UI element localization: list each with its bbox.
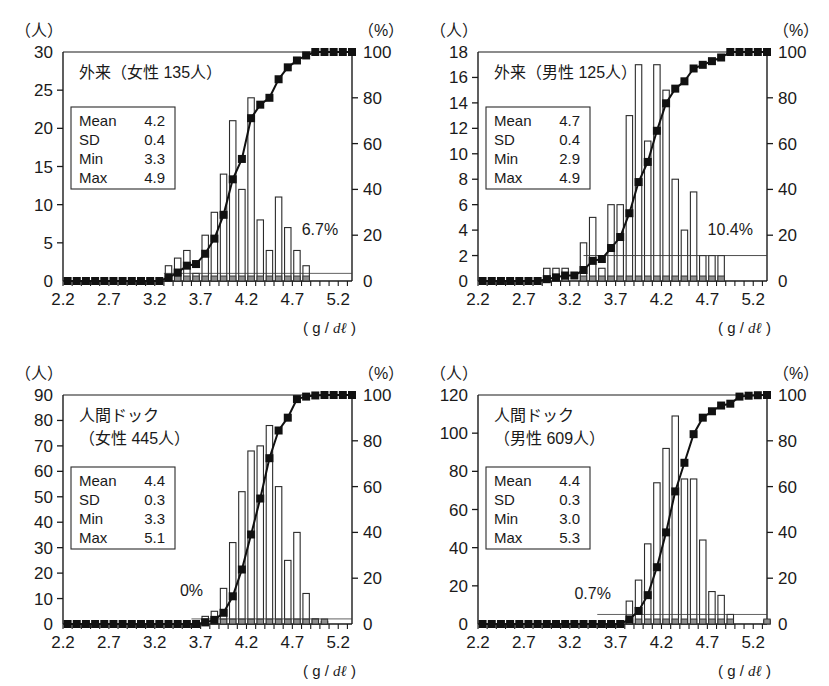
histogram-bar (654, 65, 660, 281)
stats-label: Min (79, 150, 103, 167)
histogram-bar-base (266, 276, 272, 281)
histogram-bar (635, 65, 641, 281)
y2-tick-label: 20 (778, 569, 797, 588)
y-tick-label: 0 (459, 615, 468, 634)
chart-outpatient-male: 0246810121416180204060801002.22.73.23.74… (415, 0, 829, 343)
histogram-bar-base (285, 619, 291, 624)
histogram-bar (220, 174, 226, 281)
y2-tick-label: 100 (363, 386, 391, 405)
cumulative-marker (662, 99, 670, 107)
cumulative-marker (488, 620, 496, 628)
y-axis-right: 020406080100 (767, 386, 806, 634)
y-tick-label: 2 (459, 247, 468, 266)
stats-label: Mean (79, 112, 117, 129)
y2-tick-label: 100 (778, 386, 806, 405)
y-axis-unit-label: （人） (430, 22, 478, 39)
stats-label: SD (79, 491, 100, 508)
cumulative-marker (763, 48, 771, 56)
y2-tick-label: 40 (363, 523, 382, 542)
cumulative-marker (717, 54, 725, 62)
cumulative-marker (598, 255, 606, 263)
cumulative-marker (311, 48, 319, 56)
y2-tick-label: 0 (778, 272, 787, 291)
cumulative-marker (552, 273, 560, 281)
x-axis: 2.22.73.23.74.24.75.2 (51, 281, 350, 309)
histogram-bar (589, 217, 595, 281)
cumulative-marker (708, 57, 716, 65)
histogram-bar-base (681, 619, 687, 624)
stats-value: 0.3 (559, 491, 580, 508)
y-tick-label: 8 (459, 170, 468, 189)
cumulative-marker (155, 620, 163, 628)
cumulative-marker (146, 277, 154, 285)
cumulative-marker (515, 620, 523, 628)
histogram-bar (211, 212, 217, 281)
histogram-bar (672, 416, 678, 624)
histogram-bar-base (248, 619, 254, 624)
x-tick-label: 2.7 (97, 290, 121, 309)
histogram-bar-base (718, 276, 724, 281)
svg-text:( g / dℓ ): ( g / dℓ ) (718, 319, 771, 336)
histogram-bar (645, 544, 651, 624)
cumulative-marker (506, 620, 514, 628)
x-tick-label: 3.2 (143, 290, 167, 309)
histogram-bar-base (654, 276, 660, 281)
y2-axis-unit-label: （%） (773, 22, 819, 39)
histogram-bar-base (635, 276, 641, 281)
cumulative-marker (580, 266, 588, 274)
cumulative-marker (699, 61, 707, 69)
histogram-bar-base (220, 276, 226, 281)
y2-axis-unit-label: （%） (358, 22, 404, 39)
y-axis-left: 020406080100120 (440, 386, 478, 634)
y-tick-label: 40 (449, 539, 468, 558)
y-tick-label: 10 (449, 145, 468, 164)
stats-label: Max (494, 169, 523, 186)
cumulative-marker (109, 620, 117, 628)
x-tick-label: 3.7 (604, 633, 628, 652)
cumulative-marker (754, 391, 762, 399)
y-tick-label: 90 (34, 386, 53, 405)
y-axis-unit-label: （人） (430, 365, 478, 382)
y-tick-label: 20 (34, 119, 53, 138)
histogram-bar-base (174, 276, 180, 281)
histogram-bar (700, 540, 706, 624)
cumulative-marker (220, 211, 228, 219)
histogram-bar-base (663, 276, 669, 281)
cumulative-marker (100, 620, 108, 628)
histogram-bar (275, 197, 281, 281)
cumulative-marker (238, 566, 246, 574)
cumulative-marker (570, 620, 578, 628)
cumulative-marker (91, 620, 99, 628)
y2-tick-label: 100 (363, 43, 391, 62)
cumulative-marker (73, 620, 81, 628)
x-tick-label: 2.2 (51, 290, 75, 309)
x-axis-unit-label: ( g / dℓ ) (718, 662, 771, 679)
cumulative-marker (275, 427, 283, 435)
x-tick-label: 3.2 (558, 633, 582, 652)
x-tick-label: 2.2 (466, 290, 490, 309)
y-axis-left: 051015202530 (34, 43, 63, 291)
histogram-bar-base (230, 276, 236, 281)
y-tick-label: 60 (34, 462, 53, 481)
chart-health-checkup-male: 0204060801001200204060801002.22.73.23.74… (415, 343, 829, 686)
stats-value: 5.1 (144, 529, 165, 546)
cumulative-marker (210, 235, 218, 243)
histogram-bars (165, 98, 309, 281)
histogram-bar-base (184, 276, 190, 281)
x-tick-label: 4.2 (235, 290, 259, 309)
y-tick-label: 15 (34, 158, 53, 177)
x-axis-unit-label: ( g / dℓ ) (718, 319, 771, 336)
stats-value: 0.4 (559, 131, 580, 148)
cumulative-marker (745, 392, 753, 400)
cumulative-marker (155, 277, 163, 285)
histogram-bar-base (690, 276, 696, 281)
x-axis: 2.22.73.23.74.24.75.2 (466, 281, 765, 309)
cumulative-marker (479, 620, 487, 628)
x-tick-label: 4.2 (650, 633, 674, 652)
stats-value: 3.3 (144, 150, 165, 167)
cumulative-marker (339, 391, 347, 399)
histogram-bar-base (727, 619, 733, 624)
histogram-bar (202, 235, 208, 281)
cumulative-marker (275, 75, 283, 83)
cumulative-marker (635, 607, 643, 615)
